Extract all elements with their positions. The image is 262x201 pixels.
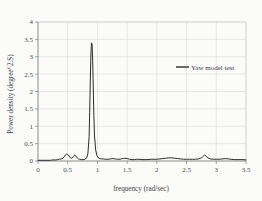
y-axis-tick-labels: 00.511.522.533.54 (24, 18, 33, 165)
chart-figure: 00.511.522.533.5 00.511.522.533.54 Yaw m… (0, 0, 262, 201)
x-tick-label: 3 (215, 166, 219, 174)
tick-marks (35, 22, 246, 164)
series-line (38, 43, 246, 160)
x-tick-label: 0.5 (63, 166, 72, 174)
x-tick-label: 0 (36, 166, 40, 174)
x-tick-label: 2.5 (182, 166, 191, 174)
chart-legend: Yaw model test (176, 64, 234, 72)
y-tick-label: 1 (30, 123, 34, 131)
x-axis-title: frequency (rad/sec) (113, 185, 169, 193)
y-tick-label: 4 (30, 18, 34, 26)
y-tick-label: 3 (30, 53, 34, 61)
y-tick-label: 2 (30, 88, 34, 96)
data-series-group (38, 43, 246, 160)
y-tick-label: 0.5 (24, 140, 33, 148)
power-density-spectrum-chart: 00.511.522.533.5 00.511.522.533.54 Yaw m… (0, 0, 262, 201)
x-tick-label: 3.5 (242, 166, 251, 174)
y-tick-label: 2.5 (24, 71, 33, 79)
gridlines (38, 22, 246, 161)
x-tick-label: 1.5 (123, 166, 132, 174)
legend-label: Yaw model test (191, 64, 234, 72)
x-tick-label: 2 (155, 166, 159, 174)
y-tick-label: 0 (30, 157, 34, 165)
y-axis-title: Power density (degree^2.S) (7, 54, 15, 134)
y-tick-label: 3.5 (24, 36, 33, 44)
y-tick-label: 1.5 (24, 105, 33, 113)
x-axis-tick-labels: 00.511.522.533.5 (36, 166, 251, 174)
x-tick-label: 1 (96, 166, 100, 174)
